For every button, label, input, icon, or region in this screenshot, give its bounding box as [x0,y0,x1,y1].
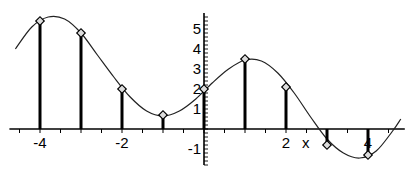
y-tick-label: 1 [193,100,201,117]
x-tick-label: -4 [33,134,46,151]
stem-marker [364,151,372,159]
chart: -4-224x54321-1 [0,0,419,174]
x-tick-label: 4 [364,134,372,151]
stem-marker [200,85,208,93]
y-tick-label: 5 [193,20,201,37]
y-tick-label: -1 [188,140,201,157]
curve-line [15,16,400,158]
chart-plot: -4-224x54321-1 [0,0,419,174]
stem-marker [282,83,290,91]
x-tick-label: 2 [282,134,290,151]
stem-marker [36,17,44,25]
stem-marker [159,111,167,119]
y-tick-label: 3 [193,60,201,77]
y-tick-label: 2 [193,80,201,97]
stem-marker [241,55,249,63]
y-tick-label: 4 [193,40,201,57]
x-axis-label: x [302,134,310,151]
x-tick-label: -2 [115,134,128,151]
